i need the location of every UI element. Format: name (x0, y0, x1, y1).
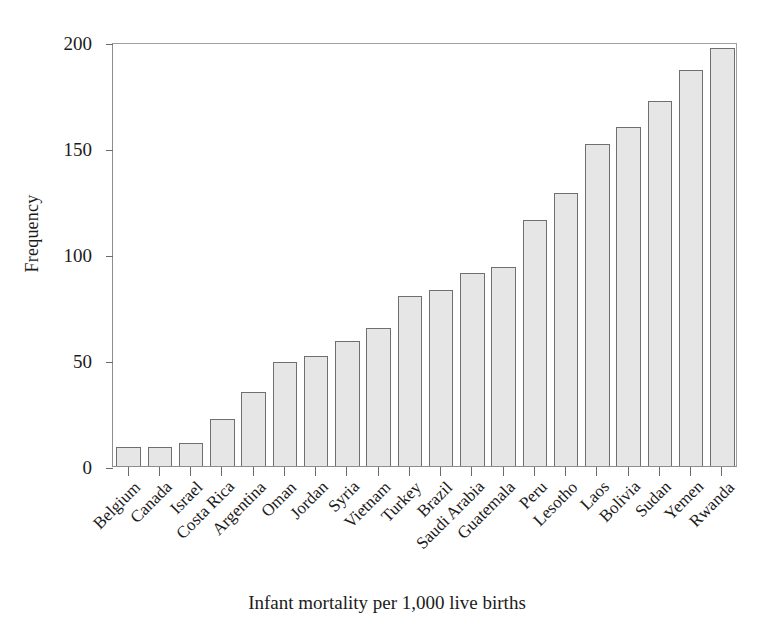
bar (210, 419, 234, 466)
y-axis-tick (106, 256, 113, 257)
bar (116, 447, 140, 466)
y-axis-tick (106, 362, 113, 363)
bar-chart-figure: Frequency 050100150200 BelgiumCanadaIsra… (0, 0, 774, 635)
x-axis-tick (565, 467, 566, 476)
bar (460, 273, 484, 466)
x-axis-tick (440, 467, 441, 476)
x-axis-tick-labels: BelgiumCanadaIsraelCosta RicaArgentinaOm… (112, 476, 737, 581)
y-axis-tick-label: 50 (73, 352, 92, 371)
x-axis-tick (503, 467, 504, 476)
bar (585, 144, 609, 466)
x-axis-tick (471, 467, 472, 476)
y-axis-tick-labels: 050100150200 (0, 43, 104, 467)
bar (429, 290, 453, 466)
x-axis-tick (628, 467, 629, 476)
bar (304, 356, 328, 466)
plot-area (112, 43, 737, 467)
y-axis-tick-label: 100 (64, 246, 93, 265)
bar (273, 362, 297, 466)
x-axis-tick (253, 467, 254, 476)
bar (335, 341, 359, 466)
bar (241, 392, 265, 466)
y-axis-tick-label: 0 (83, 458, 93, 477)
x-axis-title: Infant mortality per 1,000 live births (0, 592, 774, 614)
bars-container (113, 44, 736, 466)
bar (679, 70, 703, 466)
x-axis-tick (596, 467, 597, 476)
x-axis-tick (346, 467, 347, 476)
bar (554, 193, 578, 466)
bar (710, 48, 734, 466)
bar (398, 296, 422, 466)
bar (148, 447, 172, 466)
y-axis-tick (106, 44, 113, 45)
x-axis-tick (659, 467, 660, 476)
x-axis-tick (221, 467, 222, 476)
x-axis-tick (409, 467, 410, 476)
bar (491, 267, 515, 466)
x-axis-tick (284, 467, 285, 476)
y-axis-tick-label: 200 (64, 34, 93, 53)
x-axis-tick (190, 467, 191, 476)
y-axis-tick (106, 150, 113, 151)
x-axis-tick (690, 467, 691, 476)
bar (179, 443, 203, 466)
x-axis-ticks (112, 467, 737, 476)
bar (523, 220, 547, 466)
x-axis-tick (128, 467, 129, 476)
bar (366, 328, 390, 466)
y-axis-tick-label: 150 (64, 140, 93, 159)
x-axis-tick (534, 467, 535, 476)
bar (648, 101, 672, 466)
x-axis-tick (315, 467, 316, 476)
bar (616, 127, 640, 466)
x-axis-tick (159, 467, 160, 476)
x-axis-tick (378, 467, 379, 476)
x-axis-tick (721, 467, 722, 476)
